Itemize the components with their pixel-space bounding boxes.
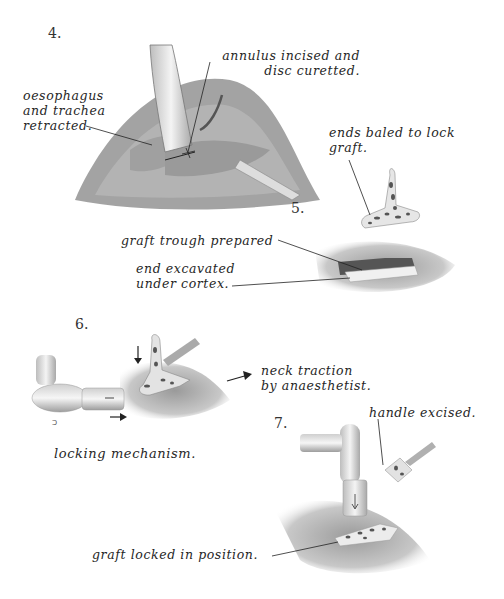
- label-locking-mechanism: locking mechanism.: [54, 446, 196, 461]
- step-number-5: 5.: [291, 200, 304, 216]
- label-oesophagus-retracted: oesophagus and trachea retracted.: [23, 88, 105, 133]
- label-traction-line1: neck traction: [261, 363, 371, 378]
- label-oeso-line2: and trachea: [23, 103, 105, 118]
- label-ends-line2: graft.: [329, 140, 455, 155]
- label-oeso-line1: oesophagus: [23, 88, 105, 103]
- label-end-line2: under cortex.: [136, 276, 235, 291]
- svg-text:ᑐ: ᑐ: [52, 419, 57, 427]
- label-oeso-line3: retracted.: [23, 118, 105, 133]
- surgical-illustration: ᑐ 4. annulus incised and disc curetted.: [0, 0, 504, 599]
- label-ends-baled: ends baled to lock graft.: [329, 125, 455, 155]
- label-annulus-line2: disc curetted.: [205, 63, 360, 78]
- step7-drawing: [272, 419, 436, 573]
- label-handle-excised: handle excised.: [369, 405, 476, 420]
- label-graft-trough: graft trough prepared: [121, 233, 273, 248]
- label-end-excavated: end excavated under cortex.: [136, 261, 235, 291]
- label-annulus-line1: annulus incised and: [205, 48, 360, 63]
- step-number-7: 7.: [274, 415, 287, 431]
- label-graft-locked: graft locked in position.: [92, 547, 258, 562]
- label-traction-line2: by anaesthetist.: [261, 378, 371, 393]
- label-annulus-incised: annulus incised and disc curetted.: [205, 48, 360, 78]
- label-end-line1: end excavated: [136, 261, 235, 276]
- label-ends-line1: ends baled to lock: [329, 125, 455, 140]
- step6-drawing: ᑐ: [32, 335, 252, 427]
- step-number-6: 6.: [75, 316, 88, 332]
- step-number-4: 4.: [48, 25, 61, 41]
- label-neck-traction: neck traction by anaesthetist.: [261, 363, 371, 393]
